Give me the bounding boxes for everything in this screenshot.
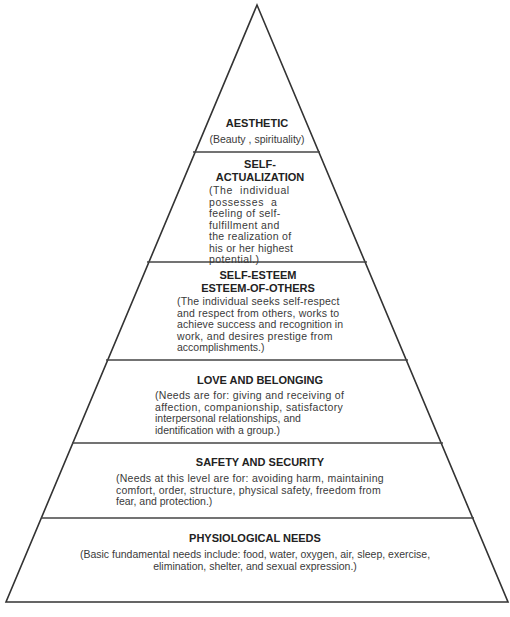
desc-line: feeling of self-: [209, 208, 315, 220]
desc-line: (Needs at this level are for: avoiding h…: [116, 473, 410, 485]
level-title-line1: SELF-: [205, 158, 315, 171]
desc-line: (Needs are for: giving and receiving of: [155, 390, 370, 402]
level-description: (Beauty , spirituality): [200, 134, 314, 146]
desc-line: identification with a group.): [155, 425, 370, 437]
desc-line: the realization of: [209, 231, 315, 243]
level-love-belonging: LOVE AND BELONGING (Needs are for: givin…: [150, 374, 370, 436]
level-title: SAFETY AND SECURITY: [110, 456, 410, 469]
level-title-line2: ESTEEM-OF-OTHERS: [163, 282, 353, 295]
level-self-actualization: SELF- ACTUALIZATION (The individual poss…: [205, 158, 315, 266]
level-safety-security: SAFETY AND SECURITY (Needs at this level…: [110, 456, 410, 508]
desc-line: accomplishments.): [177, 342, 353, 354]
level-title: AESTHETIC: [200, 117, 314, 130]
desc-line: elimination, shelter, and sexual express…: [55, 561, 455, 573]
level-self-esteem: SELF-ESTEEM ESTEEM-OF-OTHERS (The indivi…: [163, 269, 353, 354]
level-physiological: PHYSIOLOGICAL NEEDS (Basic fundamental n…: [55, 532, 455, 572]
level-aesthetic: AESTHETIC (Beauty , spirituality): [200, 117, 314, 146]
desc-line: (The individual: [209, 185, 315, 197]
desc-line: (The individual seeks self-respect: [177, 296, 353, 308]
desc-line: potential.): [209, 254, 315, 266]
desc-line: fear, and protection.): [116, 496, 410, 508]
desc-line: (Basic fundamental needs include: food, …: [55, 549, 455, 561]
level-title: LOVE AND BELONGING: [150, 374, 370, 387]
desc-line: interpersonal relationships, and: [155, 413, 370, 425]
level-title: PHYSIOLOGICAL NEEDS: [55, 532, 455, 545]
level-title-line2: ACTUALIZATION: [205, 171, 315, 184]
desc-line: achieve success and recognition in: [177, 319, 353, 331]
level-title-line1: SELF-ESTEEM: [163, 269, 353, 282]
